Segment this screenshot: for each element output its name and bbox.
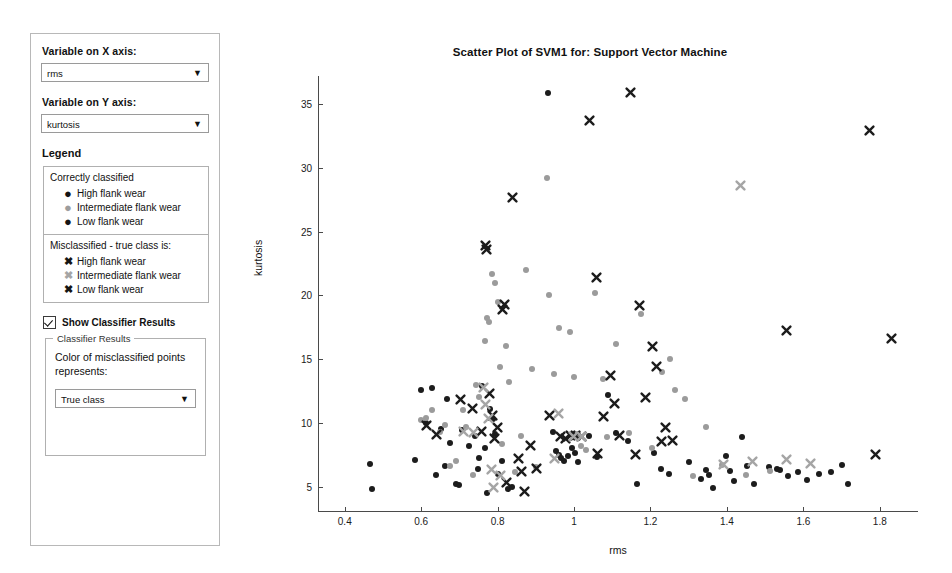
x-axis-title: rms — [318, 544, 918, 556]
x-gray-icon: ✖ — [59, 270, 77, 281]
x-tick — [498, 507, 499, 512]
data-point-cross — [531, 463, 542, 474]
data-point-cross — [513, 453, 524, 464]
show-classifier-results-checkbox[interactable] — [43, 316, 56, 329]
data-point-dot — [586, 433, 592, 439]
legend-correct-heading: Correctly classified — [50, 172, 202, 183]
data-point-dot — [482, 338, 488, 344]
data-point-cross — [735, 180, 746, 191]
data-point-cross — [483, 413, 494, 424]
data-point-cross — [651, 361, 662, 372]
data-point-cross — [609, 398, 620, 409]
data-point-dot — [466, 443, 472, 449]
data-point-dot — [613, 341, 619, 347]
data-point-dot — [672, 387, 678, 393]
y-tick — [318, 104, 323, 105]
data-point-dot — [731, 478, 737, 484]
data-point-dot — [453, 458, 459, 464]
data-point-dot — [433, 472, 439, 478]
legend-title: Legend — [42, 147, 209, 159]
data-point-cross — [886, 333, 897, 344]
x-axis-line — [318, 511, 918, 512]
legend-item-label: High flank wear — [77, 188, 146, 199]
data-point-cross — [480, 399, 491, 410]
x-tick-label: 0.8 — [491, 516, 505, 527]
data-point-cross — [591, 272, 602, 283]
y-tick-label: 30 — [292, 162, 312, 173]
data-point-dot — [638, 311, 644, 317]
x-tick-label: 1.2 — [644, 516, 658, 527]
classifier-results-description: Color of misclassified points represents… — [55, 350, 196, 378]
data-point-dot — [447, 440, 453, 446]
x-tick — [345, 507, 346, 512]
x-tick — [650, 507, 651, 512]
data-point-dot — [845, 481, 851, 487]
x-tick — [727, 507, 728, 512]
data-point-cross — [747, 456, 758, 467]
x-axis-variable-value: rms — [47, 67, 63, 78]
data-point-dot — [604, 434, 610, 440]
data-point-dot — [506, 379, 512, 385]
y-tick — [318, 168, 323, 169]
data-point-cross — [781, 454, 792, 465]
data-point-dot — [777, 467, 783, 473]
data-point-dot — [816, 471, 822, 477]
data-point-dot — [723, 453, 729, 459]
data-point-cross — [467, 403, 478, 414]
x-tick-label: 1.8 — [873, 516, 887, 527]
x-axis-variable-label: Variable on X axis: — [42, 45, 209, 57]
data-point-dot — [575, 459, 581, 465]
legend-item-label: High flank wear — [77, 256, 146, 267]
data-point-cross — [489, 433, 500, 444]
data-point-cross — [634, 300, 645, 311]
show-classifier-results-row[interactable]: Show Classifier Results — [43, 316, 209, 329]
data-point-dot — [804, 477, 810, 483]
data-point-cross — [499, 299, 510, 310]
data-point-dot — [418, 387, 424, 393]
data-point-cross — [598, 411, 609, 422]
y-tick-label: 25 — [292, 226, 312, 237]
x-tick-label: 0.6 — [414, 516, 428, 527]
chevron-down-icon: ▼ — [193, 68, 202, 77]
data-point-dot — [703, 424, 709, 430]
data-point-dot — [828, 469, 834, 475]
y-tick-label: 15 — [292, 354, 312, 365]
y-axis-variable-select[interactable]: kurtosis ▼ — [41, 114, 209, 133]
data-point-dot — [658, 466, 664, 472]
data-point-cross — [605, 370, 616, 381]
data-point-cross — [647, 341, 658, 352]
data-point-dot — [460, 407, 466, 413]
data-point-dot — [710, 485, 716, 491]
dot-dark-icon: ● — [59, 215, 77, 228]
chart-title: Scatter Plot of SVM1 for: Support Vector… — [240, 46, 940, 58]
data-point-dot — [442, 422, 448, 428]
data-point-dot — [743, 472, 749, 478]
y-tick-label: 35 — [292, 99, 312, 110]
data-point-cross — [576, 431, 587, 442]
data-point-dot — [523, 267, 529, 273]
legend-item: ● Low flank wear — [50, 214, 202, 228]
legend-item-label: Low flank wear — [77, 216, 144, 227]
data-point-dot — [492, 280, 498, 286]
data-point-dot — [447, 463, 453, 469]
y-axis-variable-value: kurtosis — [47, 118, 80, 129]
data-point-dot — [682, 396, 688, 402]
data-point-cross — [718, 459, 729, 470]
data-point-cross — [481, 244, 492, 255]
data-point-cross — [516, 466, 527, 477]
y-tick — [318, 232, 323, 233]
dot-gray-icon: ● — [59, 201, 77, 214]
data-point-dot — [739, 434, 745, 440]
data-point-dot — [651, 450, 657, 456]
y-axis-title: kurtosis — [252, 240, 264, 276]
data-point-dot — [785, 473, 791, 479]
misclassified-color-select[interactable]: True class ▼ — [55, 389, 196, 408]
legend-group-correct: Correctly classified ● High flank wear ●… — [44, 167, 208, 234]
data-point-dot — [698, 476, 704, 482]
scatter-plot-area: Scatter Plot of SVM1 for: Support Vector… — [240, 28, 940, 548]
legend-item-label: Intermediate flank wear — [77, 202, 181, 213]
data-point-cross — [640, 392, 651, 403]
x-axis-variable-select[interactable]: rms ▼ — [41, 63, 209, 82]
control-panel: Variable on X axis: rms ▼ Variable on Y … — [30, 33, 220, 546]
data-point-dot — [489, 271, 495, 277]
